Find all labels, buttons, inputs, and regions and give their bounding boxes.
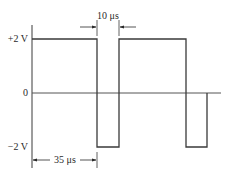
label-minus-2v: −2 V (8, 141, 29, 152)
label-10us: 10 μs (97, 10, 119, 21)
waveform-diagram: +2 V 0 −2 V 10 μs 35 μs (0, 0, 234, 180)
label-plus-2v: +2 V (8, 33, 29, 44)
label-35us: 35 μs (54, 154, 76, 165)
label-zero: 0 (23, 87, 28, 98)
